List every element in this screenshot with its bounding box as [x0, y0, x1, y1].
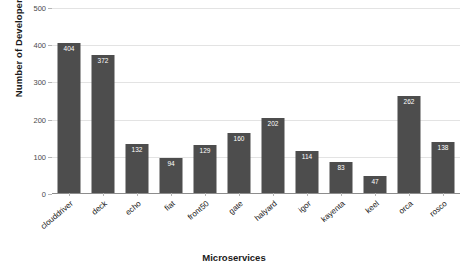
x-tick-label: deck	[90, 199, 109, 217]
x-tick-mark	[307, 193, 308, 196]
x-tick-mark	[171, 193, 172, 196]
x-tick-mark	[69, 193, 70, 196]
x-tick-label: fiat	[163, 199, 177, 213]
bar-slot: 202halyard	[256, 8, 290, 193]
x-tick-label: echo	[124, 199, 143, 217]
x-tick-label: orca	[397, 199, 415, 216]
bar[interactable]: 372	[92, 55, 115, 193]
x-tick-label: gate	[227, 199, 245, 216]
x-tick-mark	[341, 193, 342, 196]
bar-value-label: 160	[228, 136, 251, 143]
x-tick-mark	[239, 193, 240, 196]
bar[interactable]: 160	[228, 133, 251, 193]
bar-value-label: 132	[126, 147, 149, 154]
bar-slot: 129front50	[188, 8, 222, 193]
y-axis-title: Number of Developers	[13, 0, 24, 126]
bar[interactable]: 94	[160, 158, 183, 193]
bar[interactable]: 129	[194, 145, 217, 193]
bar-slot: 138rosco	[426, 8, 460, 193]
x-tick-mark	[273, 193, 274, 196]
bar[interactable]: 83	[330, 162, 353, 193]
bar-value-label: 114	[296, 154, 319, 161]
bar-value-label: 83	[330, 165, 353, 172]
x-tick-label: keel	[364, 199, 381, 215]
bar[interactable]: 114	[296, 151, 319, 193]
x-tick-label: clouddriver	[39, 199, 75, 231]
y-tick-label: 200	[33, 115, 46, 124]
x-tick-mark	[443, 193, 444, 196]
bar-slot: 372deck	[86, 8, 120, 193]
x-tick-label: front50	[186, 199, 211, 222]
bar[interactable]: 404	[58, 43, 81, 193]
bar-slot: 160gate	[222, 8, 256, 193]
y-tick-label: 400	[33, 41, 46, 50]
bar[interactable]: 132	[126, 144, 149, 193]
x-tick-label: rosco	[428, 199, 449, 218]
bar-slot: 83kayenta	[324, 8, 358, 193]
bar-slot: 94fiat	[154, 8, 188, 193]
y-tick-mark	[48, 194, 52, 195]
bar-value-label: 202	[262, 121, 285, 128]
bar-value-label: 372	[92, 58, 115, 65]
y-tick-label: 0	[42, 190, 46, 199]
bar-slot: 132echo	[120, 8, 154, 193]
x-tick-label: halyard	[253, 199, 279, 223]
bar-chart: Number of Developers 0100200300400500 40…	[0, 0, 468, 269]
bar-value-label: 138	[432, 145, 455, 152]
bar-value-label: 129	[194, 148, 217, 155]
plot-area: 0100200300400500 404clouddriver372deck13…	[52, 8, 460, 194]
bar-slot: 114igor	[290, 8, 324, 193]
x-tick-label: kayenta	[320, 199, 347, 224]
bar[interactable]: 138	[432, 142, 455, 193]
x-tick-mark	[137, 193, 138, 196]
y-tick-label: 500	[33, 4, 46, 13]
bar-value-label: 262	[398, 99, 421, 106]
bar-value-label: 404	[58, 46, 81, 53]
x-tick-mark	[103, 193, 104, 196]
bar-value-label: 47	[364, 179, 387, 186]
x-axis-line	[52, 193, 460, 194]
x-tick-mark	[205, 193, 206, 196]
bar[interactable]: 47	[364, 176, 387, 193]
bar-slot: 262orca	[392, 8, 426, 193]
bar[interactable]: 262	[398, 96, 421, 193]
bars-group: 404clouddriver372deck132echo94fiat129fro…	[52, 8, 460, 193]
y-tick-label: 300	[33, 78, 46, 87]
bar-slot: 47keel	[358, 8, 392, 193]
bar[interactable]: 202	[262, 118, 285, 193]
y-tick-label: 100	[33, 152, 46, 161]
x-tick-mark	[409, 193, 410, 196]
bar-slot: 404clouddriver	[52, 8, 86, 193]
bar-value-label: 94	[160, 161, 183, 168]
x-axis-title: Microservices	[0, 252, 468, 263]
x-tick-mark	[375, 193, 376, 196]
x-tick-label: igor	[297, 199, 313, 214]
